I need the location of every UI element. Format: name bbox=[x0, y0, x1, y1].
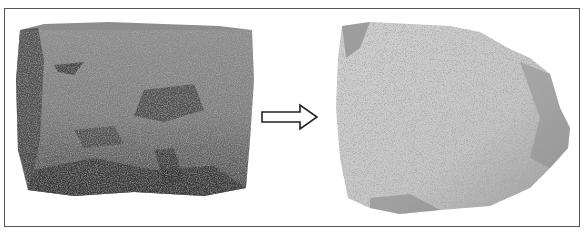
transformation-arrow bbox=[260, 102, 320, 132]
rock-before-graphic bbox=[14, 20, 256, 198]
rock-after-image bbox=[330, 18, 574, 216]
rock-before-image bbox=[14, 20, 256, 198]
rock-after-graphic bbox=[330, 18, 574, 216]
arrow-right-icon bbox=[260, 102, 320, 132]
